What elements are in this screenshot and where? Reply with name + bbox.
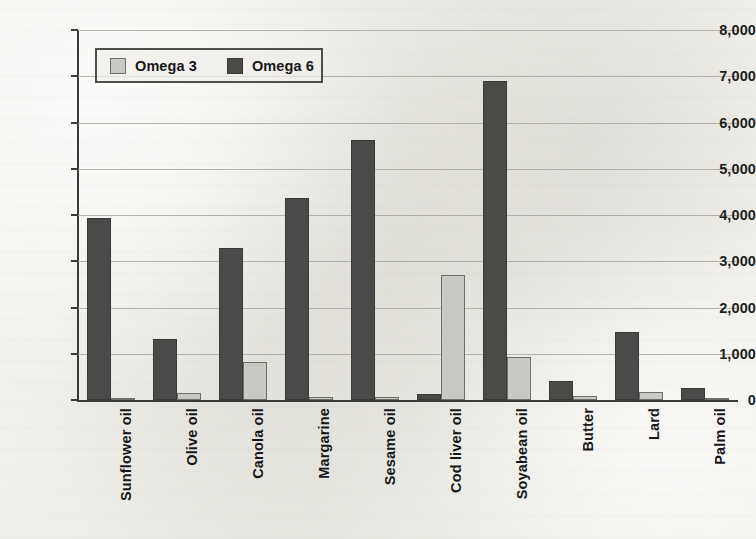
bar xyxy=(483,81,507,400)
x-axis-label: Lard xyxy=(646,408,662,440)
y-tick-mark-2000 xyxy=(71,307,78,309)
bar xyxy=(507,357,531,400)
bar xyxy=(285,198,309,400)
x-axis-label: Sesame oil xyxy=(382,408,398,485)
plot-area xyxy=(78,30,738,400)
bar xyxy=(549,381,573,400)
bar-group xyxy=(219,30,267,400)
bar xyxy=(87,218,111,400)
y-tick-mark-0 xyxy=(71,399,78,401)
bar xyxy=(573,396,597,400)
y-tick-mark-6000 xyxy=(71,122,78,124)
x-axis-label: Soyabean oil xyxy=(514,408,530,499)
y-tick-mark-4000 xyxy=(71,214,78,216)
x-axis-label: Cod liver oil xyxy=(448,408,464,493)
bar-group xyxy=(87,30,135,400)
x-axis-label: Sunflower oil xyxy=(118,408,134,501)
y-tick-mark-1000 xyxy=(71,353,78,355)
bar xyxy=(639,392,663,400)
bar xyxy=(111,398,135,400)
bar xyxy=(417,394,441,400)
y-tick-label-2000: 2,000 xyxy=(694,300,756,316)
legend-swatch-omega-6-icon xyxy=(227,58,243,74)
y-tick-label-6000: 6,000 xyxy=(694,115,756,131)
legend-label-omega-6: Omega 6 xyxy=(252,58,314,74)
legend-label-omega-3: Omega 3 xyxy=(135,58,197,74)
bar-chart: 01,0002,0003,0004,0005,0006,0007,0008,00… xyxy=(0,0,756,539)
bar-group xyxy=(549,30,597,400)
bar xyxy=(309,397,333,400)
y-tick-mark-7000 xyxy=(71,75,78,77)
bar-group xyxy=(417,30,465,400)
x-axis-label: Butter xyxy=(580,408,596,452)
bar xyxy=(153,339,177,400)
y-tick-label-1000: 1,000 xyxy=(694,346,756,362)
y-tick-mark-3000 xyxy=(71,260,78,262)
legend-swatch-omega-3-icon xyxy=(110,58,126,74)
y-tick-mark-5000 xyxy=(71,168,78,170)
bar-group xyxy=(351,30,399,400)
bar xyxy=(219,248,243,400)
y-tick-label-0: 0 xyxy=(694,392,756,408)
bar-group xyxy=(615,30,663,400)
chart-legend: Omega 3 Omega 6 xyxy=(95,48,323,83)
bar-group xyxy=(285,30,333,400)
bar xyxy=(177,393,201,400)
bar-group xyxy=(153,30,201,400)
bar xyxy=(441,275,465,400)
legend-item-omega-6: Omega 6 xyxy=(227,58,314,74)
x-axis-label: Palm oil xyxy=(712,408,728,465)
y-tick-mark-8000 xyxy=(71,29,78,31)
x-axis-label: Olive oil xyxy=(184,408,200,466)
gridline-0 xyxy=(78,400,738,402)
bar xyxy=(375,397,399,400)
y-tick-label-8000: 8,000 xyxy=(694,22,756,38)
bar xyxy=(243,362,267,400)
bar xyxy=(351,140,375,400)
y-tick-label-4000: 4,000 xyxy=(694,207,756,223)
y-tick-label-5000: 5,000 xyxy=(694,161,756,177)
y-tick-label-7000: 7,000 xyxy=(694,68,756,84)
y-tick-label-3000: 3,000 xyxy=(694,253,756,269)
bars-layer xyxy=(78,30,738,400)
bar-group xyxy=(483,30,531,400)
bar xyxy=(615,332,639,400)
legend-item-omega-3: Omega 3 xyxy=(110,58,197,74)
x-axis-label: Canola oil xyxy=(250,408,266,479)
x-axis-label: Margarine xyxy=(316,408,332,479)
